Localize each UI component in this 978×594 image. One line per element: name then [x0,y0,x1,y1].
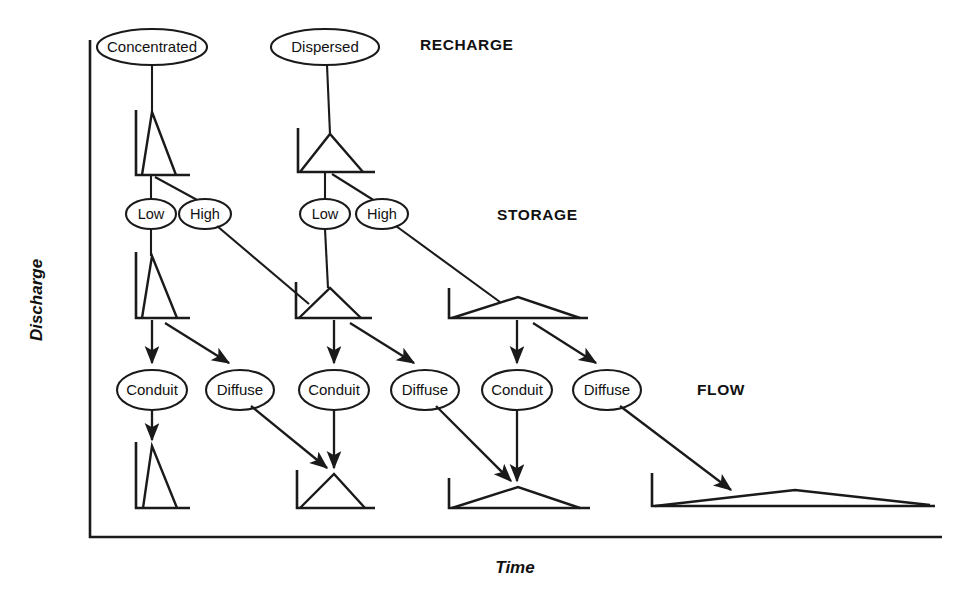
stage-label-storage: STORAGE [497,206,578,223]
node-label: Conduit [126,381,179,398]
connector-low-2-to-storage-hydrograph [325,229,328,288]
connector-dispersed-to-hydrograph [327,65,330,134]
hydrograph-storage-low-concentrated [136,252,190,318]
node-conduit-2[interactable]: Conduit [299,370,369,410]
stage-label-flow: FLOW [697,381,745,398]
connector-storage-1-to-diffuse-1 [165,323,229,363]
node-concentrated[interactable]: Concentrated [97,29,207,65]
node-label: High [190,206,220,222]
node-diffuse-2[interactable]: Diffuse [391,370,459,410]
hydrograph-curve [452,297,580,318]
hydrograph-curve [452,487,580,508]
node-label: High [367,206,397,222]
hydrograph-flow-conduit-3 [449,478,590,508]
axis-label-time: Time [495,558,534,577]
hydrograph-flow-conduit-2 [297,470,375,508]
connector-storage-3-to-diffuse-3 [533,323,596,363]
hydrograph-mini-axis [298,128,375,172]
hydrograph-curve [142,112,176,175]
node-diffuse-3[interactable]: Diffuse [573,370,641,410]
node-high-1[interactable]: High [179,199,231,229]
diagram-canvas: Discharge Time RECHARGE STORAGE FLOW Low… [0,0,978,594]
x-axis-label: Time [495,558,534,577]
hydrograph-recharge-concentrated [136,110,190,175]
node-label: Dispersed [291,38,359,55]
hydrograph-storage-high-concentrated [296,282,372,318]
hydrograph-mini-axis [296,282,372,318]
hydrograph-curve [300,474,365,508]
node-low-1[interactable]: Low [126,199,176,229]
node-label: Diffuse [584,381,630,398]
node-label: Conduit [491,381,544,398]
connector-storage-2-to-diffuse-2 [350,323,414,363]
node-low-2[interactable]: Low [300,199,350,229]
connector-group-recharge [152,65,330,134]
node-label: Concentrated [107,38,197,55]
y-axis-label: Discharge [27,259,46,341]
connector-group-recharge-to-storage-nodes [151,173,375,201]
node-conduit-3[interactable]: Conduit [482,370,552,410]
connector-group-flow [152,406,731,490]
connector-diffuse-2-to-flow-hydrograph [436,406,511,481]
connector-diffuse-1-to-flow-hydrograph [251,406,327,468]
hydrograph-flow-diffuse-3 [652,473,935,506]
node-diffuse-1[interactable]: Diffuse [206,370,274,410]
node-dispersed[interactable]: Dispersed [271,29,379,65]
hydrograph-flow-conduit-1 [136,442,190,508]
connector-group-storage-to-flow-nodes [152,320,596,363]
node-high-2[interactable]: High [356,199,408,229]
connector-diffuse-3-to-flow-hydrograph [620,406,731,490]
node-label: Low [138,206,165,222]
axis-label-discharge: Discharge [27,259,46,341]
node-label: Conduit [308,381,361,398]
node-label: Diffuse [402,381,448,398]
hydrograph-storage-high-dispersed [449,288,588,318]
connector-hydrograph-to-high-2 [332,174,375,201]
connector-hydrograph-to-high-1 [155,177,199,201]
node-label: Diffuse [217,381,263,398]
node-conduit-1[interactable]: Conduit [117,370,187,410]
hydrograph-curve [655,490,930,506]
diagram-page: Discharge Time RECHARGE STORAGE FLOW Low… [0,0,978,594]
hydrograph-curve [142,256,177,318]
node-label: Low [312,206,339,222]
hydrograph-curve [300,134,363,172]
stage-label-recharge: RECHARGE [420,36,514,53]
hydrograph-recharge-dispersed [298,128,375,172]
hydrograph-curve [143,446,177,508]
